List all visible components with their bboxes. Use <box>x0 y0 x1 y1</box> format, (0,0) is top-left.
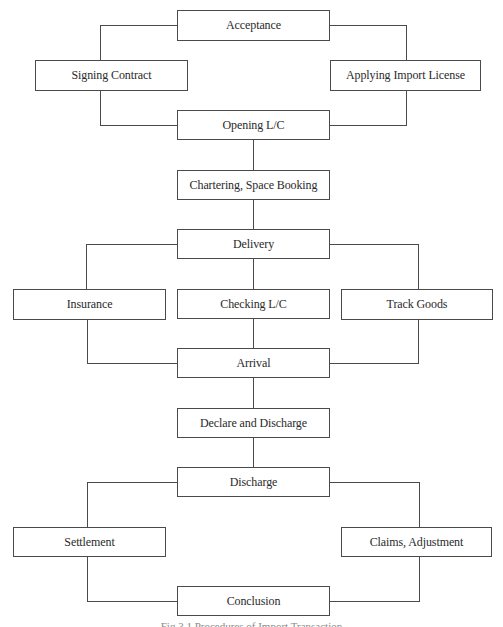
node-opening-lc: Opening L/C <box>177 110 330 140</box>
node-label: Applying Import License <box>346 68 465 83</box>
node-label: Declare and Discharge <box>200 416 307 431</box>
node-settlement: Settlement <box>13 527 166 557</box>
edge-license-opening <box>330 125 407 126</box>
node-label: Claims, Adjustment <box>370 535 464 550</box>
node-chartering-space-booking: Chartering, Space Booking <box>177 170 330 200</box>
edge-checking-arrival <box>253 319 254 348</box>
edge-delivery-insurance-v <box>86 244 87 289</box>
edge-discharge-settlement <box>87 482 177 483</box>
edge-delivery-insurance <box>86 244 177 245</box>
node-label: Delivery <box>233 237 274 252</box>
node-checking-lc: Checking L/C <box>177 289 330 319</box>
edge-claims-conclusion-v <box>419 557 420 601</box>
node-insurance: Insurance <box>13 289 166 320</box>
edge-chartering-delivery <box>253 200 254 229</box>
edge-arrival-declare <box>253 378 254 408</box>
import-procedure-flowchart: Acceptance Signing Contract Applying Imp… <box>0 0 503 627</box>
node-label: Discharge <box>230 475 278 490</box>
node-acceptance: Acceptance <box>177 10 330 41</box>
node-discharge: Discharge <box>177 467 330 497</box>
edge-discharge-claims <box>330 482 419 483</box>
node-claims-adjustment: Claims, Adjustment <box>341 527 492 557</box>
node-label: Opening L/C <box>223 118 285 133</box>
node-applying-import-license: Applying Import License <box>330 60 481 91</box>
node-track-goods: Track Goods <box>341 289 493 320</box>
edge-delivery-track-v <box>418 244 419 289</box>
node-label: Track Goods <box>387 297 448 312</box>
edge-discharge-settlement-v <box>87 482 88 527</box>
node-label: Conclusion <box>227 594 281 609</box>
node-label: Insurance <box>67 297 113 312</box>
node-delivery: Delivery <box>177 229 330 259</box>
edge-delivery-track <box>330 244 418 245</box>
edge-discharge-claims-v <box>419 482 420 527</box>
edge-delivery-checking <box>253 259 254 289</box>
node-label: Acceptance <box>226 18 281 33</box>
edge-declare-discharge <box>253 438 254 467</box>
edge-acceptance-signing <box>100 25 177 26</box>
edge-license-opening-v <box>406 91 407 125</box>
edge-track-arrival <box>330 363 419 364</box>
edge-signing-opening-v <box>100 91 101 125</box>
figure-caption: Fig 3.1 Procedures of Import Transaction <box>0 619 503 627</box>
node-label: Settlement <box>64 535 114 550</box>
edge-acceptance-license-v <box>406 25 407 60</box>
node-arrival: Arrival <box>177 348 330 378</box>
edge-acceptance-license <box>330 25 406 26</box>
node-signing-contract: Signing Contract <box>35 60 188 91</box>
node-conclusion: Conclusion <box>177 586 330 616</box>
node-label: Arrival <box>237 356 271 371</box>
edge-settlement-conclusion <box>87 601 177 602</box>
edge-claims-conclusion <box>330 601 420 602</box>
edge-acceptance-signing-v <box>100 25 101 60</box>
node-label: Chartering, Space Booking <box>190 178 318 193</box>
node-label: Signing Contract <box>71 68 151 83</box>
edge-track-arrival-v <box>418 320 419 363</box>
edge-settlement-conclusion-v <box>87 557 88 601</box>
edge-insurance-arrival-v <box>87 320 88 363</box>
edge-insurance-arrival <box>87 363 177 364</box>
node-declare-and-discharge: Declare and Discharge <box>177 408 330 438</box>
edge-signing-opening <box>100 125 177 126</box>
node-label: Checking L/C <box>220 297 286 312</box>
edge-opening-chartering <box>253 140 254 170</box>
